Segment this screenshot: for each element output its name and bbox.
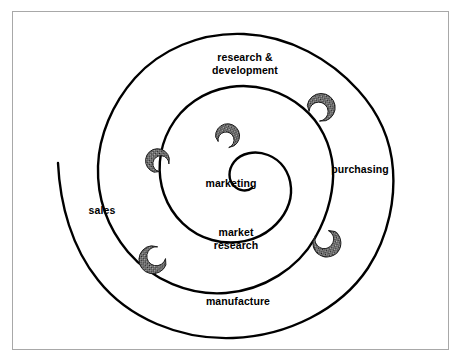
marker-outer-top-right [303,88,341,125]
marker-inner-top [213,120,243,149]
stage-label-market-research: market research [214,226,259,251]
stage-label-sales: sales [89,204,116,217]
marker-outer-bottom-right [309,226,346,263]
marker-mid-left [141,144,174,177]
stage-label-marketing: marketing [205,177,256,190]
stage-label-purchasing: purchasing [331,163,389,176]
stage-label-research-development: research & development [212,51,278,76]
marker-outer-bottom-left [133,241,171,279]
stage-label-manufacture: manufacture [206,295,270,308]
figure-container: research & development purchasing manufa… [0,0,461,362]
